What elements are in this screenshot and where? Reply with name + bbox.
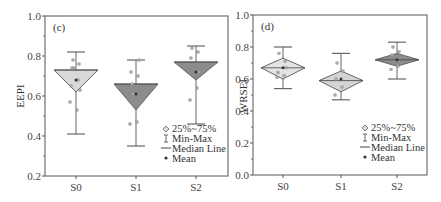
data-point xyxy=(397,65,399,67)
data-point xyxy=(78,63,80,65)
y-tick-label: 1.0 xyxy=(27,10,41,22)
x-tick-label: S1 xyxy=(335,180,347,192)
iqr-diamond xyxy=(319,71,363,92)
panel-label: (d) xyxy=(261,20,274,33)
y-tick-label: 0.0 xyxy=(235,169,249,181)
y-tick-label: 0.2 xyxy=(235,137,249,149)
data-point xyxy=(69,101,71,103)
data-point xyxy=(131,83,133,85)
data-point xyxy=(198,71,200,73)
data-point xyxy=(285,67,287,69)
data-point xyxy=(390,68,392,70)
x-tick-label: S1 xyxy=(130,181,142,193)
chart-canvas: 0.20.40.60.81.0S0S1S2EEPI(c)25%~75%Min-M… xyxy=(0,0,441,202)
data-point xyxy=(76,109,78,111)
panel-label: (c) xyxy=(53,21,66,34)
data-point xyxy=(130,71,132,73)
y-axis-label: WRSEI xyxy=(237,79,249,114)
data-point xyxy=(342,70,344,72)
legend-diamond-icon xyxy=(362,125,368,131)
data-point xyxy=(129,123,131,125)
box-S0 xyxy=(261,47,305,89)
data-point xyxy=(197,51,199,53)
data-point xyxy=(70,85,72,87)
data-point xyxy=(73,67,75,69)
data-point xyxy=(196,87,198,89)
data-point xyxy=(341,86,343,88)
y-tick-label: 0.2 xyxy=(27,170,41,182)
y-tick-label: 0.8 xyxy=(27,50,41,62)
data-point xyxy=(284,60,286,62)
data-point xyxy=(138,59,140,61)
data-point xyxy=(190,57,192,59)
y-axis-label: EEPI xyxy=(14,84,26,108)
chart-panel-c: 0.20.40.60.81.0S0S1S2EEPI(c)25%~75%Min-M… xyxy=(14,10,228,193)
data-point xyxy=(132,93,134,95)
iqr-diamond xyxy=(114,84,158,110)
legend: 25%~75%Min-MaxMedian LineMean xyxy=(161,123,226,164)
data-point xyxy=(391,54,393,56)
mean-marker xyxy=(195,71,198,74)
data-point xyxy=(79,89,81,91)
box-S1 xyxy=(319,53,363,99)
data-point xyxy=(336,62,338,64)
x-tick-label: S2 xyxy=(391,180,403,192)
legend-mean-icon xyxy=(164,156,167,159)
box-S2 xyxy=(174,46,218,124)
data-point xyxy=(335,78,337,80)
data-point xyxy=(277,71,279,73)
data-point xyxy=(137,75,139,77)
data-point xyxy=(276,76,278,78)
data-point xyxy=(189,99,191,101)
legend-mean-icon xyxy=(363,155,366,158)
data-point xyxy=(398,51,400,53)
x-tick-label: S2 xyxy=(190,181,202,193)
x-tick-label: S0 xyxy=(277,180,289,192)
box-S0 xyxy=(54,52,98,134)
data-point xyxy=(392,46,394,48)
legend-item: Mean xyxy=(371,152,396,163)
data-point xyxy=(136,121,138,123)
mean-marker xyxy=(282,66,285,69)
legend: 25%~75%Min-MaxMedian LineMean xyxy=(360,122,425,163)
legend-diamond-icon xyxy=(163,126,169,132)
y-tick-label: 0.6 xyxy=(27,90,41,102)
mean-marker xyxy=(135,93,138,96)
data-point xyxy=(278,52,280,54)
box-S2 xyxy=(375,42,419,79)
data-point xyxy=(72,59,74,61)
box-S1 xyxy=(114,59,158,146)
y-tick-label: 0.8 xyxy=(235,41,249,53)
data-point xyxy=(283,75,285,77)
chart-panel-d: 0.00.20.40.60.81.0S0S1S2WRSEI(d)25%~75%M… xyxy=(235,9,427,192)
mean-marker xyxy=(340,78,343,81)
data-point xyxy=(191,47,193,49)
x-tick-label: S0 xyxy=(70,181,82,193)
mean-marker xyxy=(75,79,78,82)
data-point xyxy=(334,94,336,96)
legend-item: Mean xyxy=(172,153,197,164)
mean-marker xyxy=(396,58,399,61)
y-tick-label: 1.0 xyxy=(235,9,249,21)
y-tick-label: 0.4 xyxy=(27,130,41,142)
